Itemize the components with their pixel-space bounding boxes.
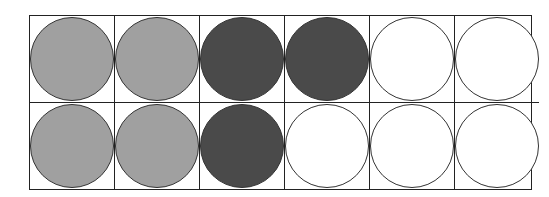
circle-light (30, 17, 114, 101)
grid-cell (370, 103, 455, 190)
circle-dark (200, 104, 284, 188)
grid-cell (115, 103, 200, 190)
grid-cell (200, 16, 285, 103)
circle-light (30, 104, 114, 188)
grid-cell (115, 16, 200, 103)
grid-cell (285, 103, 370, 190)
grid-cell (200, 103, 285, 190)
grid-cell (370, 16, 455, 103)
circle-empty (455, 104, 539, 188)
circle-grid (29, 15, 532, 190)
grid-cell (285, 16, 370, 103)
grid-cell (30, 103, 115, 190)
circle-dark (200, 17, 284, 101)
grid-cell (455, 16, 539, 103)
circle-light (115, 17, 199, 101)
circle-light (115, 104, 199, 188)
circle-empty (455, 17, 539, 101)
grid-cell (455, 103, 539, 190)
circle-empty (370, 104, 454, 188)
circle-empty (285, 104, 369, 188)
circle-dark (285, 17, 369, 101)
circle-empty (370, 17, 454, 101)
grid-cell (30, 16, 115, 103)
